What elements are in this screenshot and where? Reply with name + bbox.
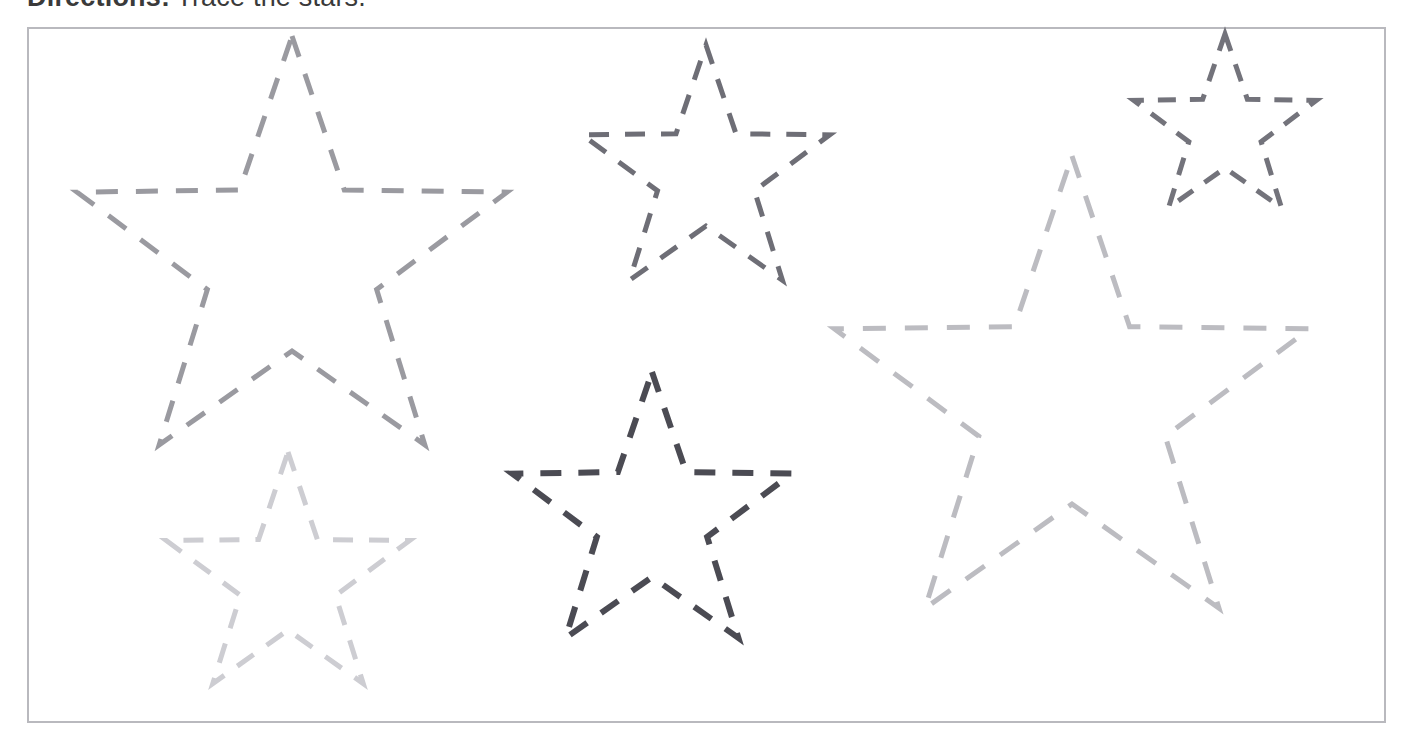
tracing-area-frame (27, 27, 1386, 723)
directions-text: Trace the stars. (176, 0, 366, 12)
worksheet-page: Directions:Trace the stars. (0, 0, 1414, 753)
directions-label: Directions: (27, 0, 170, 12)
directions-line: Directions:Trace the stars. (27, 0, 366, 14)
